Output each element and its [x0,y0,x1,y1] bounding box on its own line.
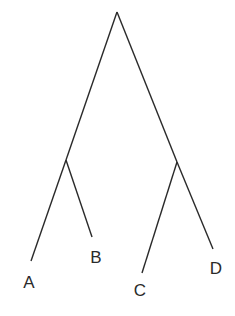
leaf-label-a: A [23,274,34,291]
edge-root-right [117,12,177,162]
leaf-label-d: D [210,260,222,277]
leaf-label-b: B [90,249,101,266]
leaf-label-c: C [134,282,146,299]
tree-edges [0,0,235,316]
edge-d [177,162,213,249]
edge-root-left [66,12,117,160]
edge-a [31,160,66,261]
tree-diagram: A B C D [0,0,235,316]
edge-b [66,160,92,237]
edge-c [142,162,177,273]
